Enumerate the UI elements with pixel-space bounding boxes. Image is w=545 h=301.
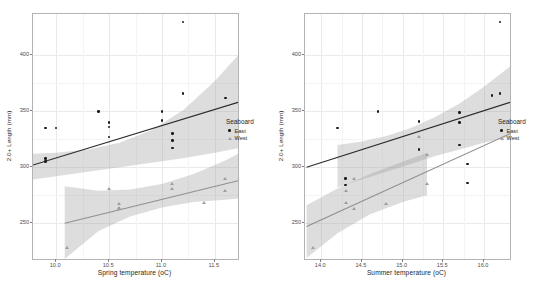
y-tick-mark <box>302 54 305 55</box>
x-tick-mark <box>55 259 56 262</box>
data-point-west <box>311 246 315 249</box>
x-tick-mark <box>214 259 215 262</box>
legend: SeaboardEastWest <box>226 118 254 143</box>
x-tick-label: 15.0 <box>388 262 416 268</box>
legend-title: Seaboard <box>226 118 254 125</box>
legend-item-west[interactable]: West <box>226 135 254 143</box>
regression-lines <box>305 14 510 259</box>
regression-line-east <box>307 102 510 167</box>
legend-title: Seaboard <box>498 118 526 125</box>
y-tick-label: 250 <box>12 219 29 225</box>
legend-item-west[interactable]: West <box>498 135 526 143</box>
data-point-west <box>425 153 429 156</box>
data-point-east <box>224 97 227 100</box>
legend-key-west <box>498 135 506 143</box>
data-point-east <box>171 132 174 135</box>
x-tick-mark <box>483 259 484 262</box>
legend-marker-east <box>500 129 503 132</box>
y-tick-mark <box>30 54 33 55</box>
y-tick-label: 250 <box>284 219 301 225</box>
x-tick-label: 15.5 <box>428 262 456 268</box>
data-point-west <box>170 182 174 185</box>
legend-item-east[interactable]: East <box>226 127 254 135</box>
legend-key-east <box>498 127 506 135</box>
y-tick-label: 400 <box>12 51 29 57</box>
data-point-west <box>352 207 356 210</box>
plot-area-spring <box>32 13 239 260</box>
x-tick-mark <box>442 259 443 262</box>
panel-spring: 25030035040010.010.511.011.5Spring tempe… <box>0 0 272 301</box>
legend-key-west <box>226 135 234 143</box>
y-tick-label: 350 <box>284 107 301 113</box>
x-tick-mark <box>161 259 162 262</box>
x-tick-label: 11.0 <box>147 262 175 268</box>
x-axis-title: Summer temperature (oC) <box>304 269 509 276</box>
x-tick-label: 14.5 <box>347 262 375 268</box>
x-tick-label: 10.0 <box>41 262 69 268</box>
regression-lines <box>33 14 238 259</box>
data-point-east <box>466 163 469 166</box>
data-point-east <box>458 144 461 147</box>
legend-item-east[interactable]: East <box>498 127 526 135</box>
legend-key-east <box>226 127 234 135</box>
legend: SeaboardEastWest <box>498 118 526 143</box>
figure-root: 25030035040010.010.511.011.5Spring tempe… <box>0 0 545 301</box>
y-tick-mark <box>30 166 33 167</box>
data-point-west <box>425 182 429 185</box>
data-point-west <box>344 201 348 204</box>
y-tick-label: 300 <box>284 163 301 169</box>
data-point-east <box>466 182 469 185</box>
y-tick-mark <box>302 166 305 167</box>
x-tick-mark <box>402 259 403 262</box>
plot-area-summer <box>304 13 511 260</box>
y-axis-title: 2.0+ Length (mm) <box>5 110 12 161</box>
data-point-east <box>418 148 421 151</box>
data-point-west <box>223 189 227 192</box>
data-point-east <box>97 110 100 113</box>
regression-line-west <box>65 181 238 224</box>
legend-marker-east <box>228 129 231 132</box>
regression-line-west <box>307 134 510 227</box>
data-point-east <box>171 139 174 142</box>
data-point-west <box>107 187 111 190</box>
data-point-east <box>44 157 47 160</box>
data-point-east <box>161 119 164 122</box>
data-point-west <box>117 207 121 210</box>
x-tick-mark <box>320 259 321 262</box>
data-point-west <box>170 187 174 190</box>
data-point-west <box>352 177 356 180</box>
legend-label-west: West <box>235 135 248 141</box>
data-point-east <box>458 121 461 124</box>
data-point-east <box>344 177 347 180</box>
data-point-east <box>418 120 421 123</box>
data-point-west <box>65 246 69 249</box>
legend-label-west: West <box>507 135 520 141</box>
y-tick-label: 300 <box>12 163 29 169</box>
x-tick-mark <box>361 259 362 262</box>
data-point-west <box>223 177 227 180</box>
data-point-west <box>384 202 388 205</box>
x-tick-label: 10.5 <box>94 262 122 268</box>
data-point-east <box>458 111 461 114</box>
x-axis-title: Spring temperature (oC) <box>32 269 237 276</box>
x-tick-label: 11.5 <box>200 262 228 268</box>
data-point-east <box>44 160 47 163</box>
y-tick-mark <box>30 110 33 111</box>
data-point-east <box>161 110 164 113</box>
data-point-west <box>202 201 206 204</box>
y-tick-mark <box>30 222 33 223</box>
data-point-west <box>344 189 348 192</box>
x-tick-label: 16.0 <box>469 262 497 268</box>
y-tick-mark <box>302 222 305 223</box>
panel-summer: 25030035040014.014.515.015.516.0Summer t… <box>272 0 544 301</box>
y-tick-mark <box>302 110 305 111</box>
y-axis-title: 2.0+ Length (mm) <box>277 110 284 161</box>
x-tick-label: 14.0 <box>306 262 334 268</box>
data-point-west <box>417 135 421 138</box>
legend-label-east: East <box>507 128 518 134</box>
legend-label-east: East <box>235 128 246 134</box>
y-tick-label: 400 <box>284 51 301 57</box>
x-tick-mark <box>108 259 109 262</box>
y-tick-label: 350 <box>12 107 29 113</box>
regression-line-east <box>33 102 238 165</box>
